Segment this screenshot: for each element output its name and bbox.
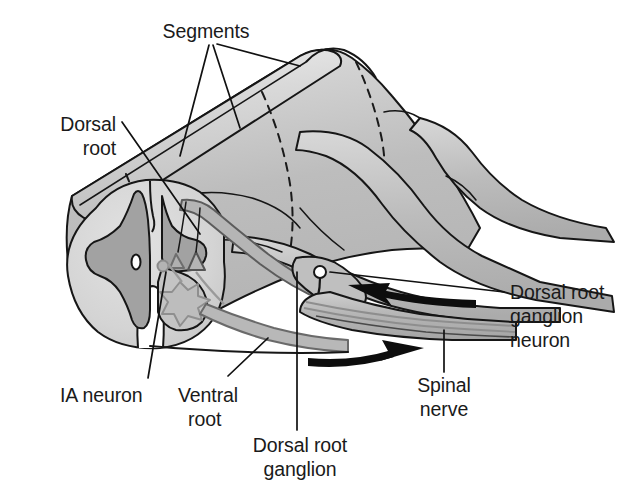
label-segments: Segments — [163, 20, 250, 42]
label-ventral-root-line2: root — [188, 408, 222, 430]
label-drg-line2: ganglion — [264, 458, 337, 480]
leader-segments-3 — [217, 44, 300, 66]
label-drg-neuron-line2: ganglion — [510, 305, 583, 327]
spinal-cord-diagram: Segments Dorsal root IA neuron Ventral r… — [0, 0, 623, 491]
label-drg-neuron-line3: neuron — [510, 329, 570, 351]
drg-neuron-soma — [314, 266, 326, 278]
label-ventral-root-line1: Ventral — [178, 384, 238, 406]
label-dorsal-root-line2: root — [83, 137, 117, 159]
ia-neuron-soma — [158, 261, 169, 272]
label-drg-line1: Dorsal root — [253, 434, 348, 456]
diagram-canvas: Segments Dorsal root IA neuron Ventral r… — [0, 0, 623, 491]
label-dorsal-root-line1: Dorsal — [60, 113, 116, 135]
central-canal — [132, 255, 141, 270]
label-spinal-nerve-line1: Spinal — [417, 374, 471, 396]
label-drg-neuron-line1: Dorsal root — [510, 281, 605, 303]
efferent-arrow-head — [380, 340, 424, 361]
label-ia-neuron: IA neuron — [60, 384, 143, 406]
label-spinal-nerve-line2: nerve — [420, 398, 468, 420]
leader-ventral-root — [228, 338, 268, 376]
